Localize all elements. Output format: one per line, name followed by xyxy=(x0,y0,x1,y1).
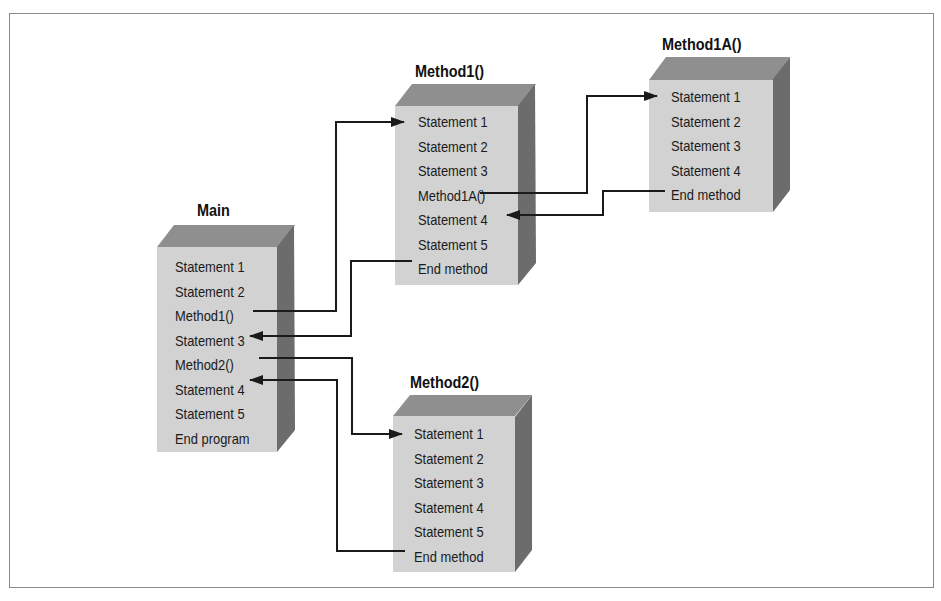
method1a-line: Statement 1 xyxy=(671,85,741,110)
method2-line: End method xyxy=(414,545,484,570)
method1-line: Statement 4 xyxy=(418,208,488,233)
main-line: Statement 4 xyxy=(175,378,250,403)
method2-line: Statement 4 xyxy=(414,496,484,521)
method1a-title: Method1A() xyxy=(662,35,741,55)
main-line: Statement 2 xyxy=(175,280,250,305)
method1a-line: End method xyxy=(671,183,741,208)
method2-line: Statement 1 xyxy=(414,422,484,447)
method1-line: End method xyxy=(418,257,488,282)
main-line: Statement 1 xyxy=(175,255,250,280)
main-line: Statement 5 xyxy=(175,402,250,427)
method1-line: Method1A() xyxy=(418,184,488,209)
main-title: Main xyxy=(197,201,230,221)
method1a-line: Statement 3 xyxy=(671,134,741,159)
main-lines: Statement 1 Statement 2 Method1() Statem… xyxy=(175,255,262,451)
method1a-lines: Statement 1 Statement 2 Statement 3 Stat… xyxy=(671,85,752,208)
method1-lines: Statement 1 Statement 2 Statement 3 Meth… xyxy=(418,110,499,282)
method1-line: Statement 3 xyxy=(418,159,488,184)
method1-line: Statement 1 xyxy=(418,110,488,135)
method2-line: Statement 5 xyxy=(414,520,484,545)
main-line: Method1() xyxy=(175,304,250,329)
main-line: End program xyxy=(175,427,250,452)
method1-line: Statement 2 xyxy=(418,135,488,160)
method1a-line: Statement 4 xyxy=(671,159,741,184)
method1a-line: Statement 2 xyxy=(671,110,741,135)
main-line: Method2() xyxy=(175,353,250,378)
method2-title: Method2() xyxy=(410,373,479,393)
method2-line: Statement 3 xyxy=(414,471,484,496)
method1-title: Method1() xyxy=(415,62,484,82)
method1-line: Statement 5 xyxy=(418,233,488,258)
method2-lines: Statement 1 Statement 2 Statement 3 Stat… xyxy=(414,422,495,569)
method2-line: Statement 2 xyxy=(414,447,484,472)
main-line: Statement 3 xyxy=(175,329,250,354)
